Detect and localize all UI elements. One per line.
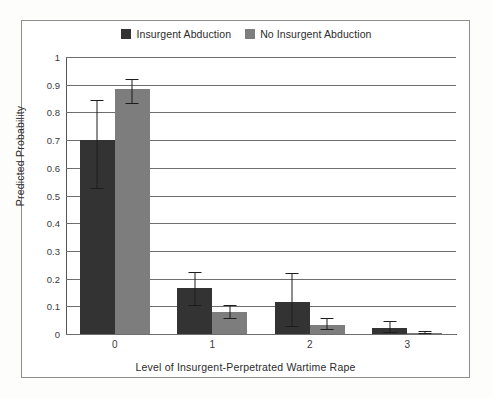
error-bar-cap-lower <box>126 103 139 104</box>
error-bar-line <box>292 273 293 328</box>
y-axis-title: Predicted Probability <box>14 101 26 211</box>
error-bar-cap-upper <box>126 79 139 80</box>
gridline <box>66 334 456 335</box>
error-bar <box>177 272 212 307</box>
error-bar-cap-upper <box>286 273 299 274</box>
error-bar-cap-lower <box>188 305 201 306</box>
error-bar-cap-upper <box>383 321 396 322</box>
error-bar <box>372 321 407 333</box>
error-bar-line <box>97 100 98 189</box>
y-axis-tick-label: 0.5 <box>47 190 60 201</box>
y-axis-tick-label: 0.8 <box>47 107 60 118</box>
error-bar-line <box>194 272 195 307</box>
y-axis-tick-labels: 10.90.80.70.60.50.40.30.20.10 <box>26 57 60 334</box>
y-axis-tick-label: 1 <box>55 52 60 63</box>
y-axis-tick-label: 0.1 <box>47 301 60 312</box>
error-bar <box>407 331 442 334</box>
error-bar <box>115 79 150 104</box>
y-axis-tick-label: 0.3 <box>47 245 60 256</box>
x-axis-title: Level of Insurgent-Perpetrated Wartime R… <box>21 361 470 373</box>
x-axis-tick-label: 2 <box>307 339 313 350</box>
error-bar-cap-lower <box>286 326 299 327</box>
plot-area <box>66 57 456 334</box>
gridline <box>66 57 456 58</box>
y-axis-tick-label: 0.6 <box>47 162 60 173</box>
error-bar <box>275 273 310 328</box>
y-axis-tick-label: 0.7 <box>47 135 60 146</box>
x-axis-tick-label: 3 <box>404 339 410 350</box>
error-bar-cap-upper <box>91 100 104 101</box>
error-bar <box>310 318 345 330</box>
error-bar-cap-lower <box>418 333 431 334</box>
bar <box>115 89 150 334</box>
x-axis-tick-label: 0 <box>112 339 118 350</box>
x-axis-tick-label: 1 <box>209 339 215 350</box>
error-bar <box>212 305 247 319</box>
y-axis-tick-label: 0.4 <box>47 218 60 229</box>
error-bar-cap-upper <box>223 305 236 306</box>
y-axis-tick-label: 0.9 <box>47 79 60 90</box>
error-bar-cap-upper <box>188 272 201 273</box>
error-bar-line <box>132 79 133 104</box>
error-bar-cap-lower <box>223 318 236 319</box>
error-bar <box>80 100 115 189</box>
error-bar-line <box>229 305 230 319</box>
error-bar-cap-lower <box>321 329 334 330</box>
error-bar-cap-lower <box>383 332 396 333</box>
error-bar-cap-lower <box>91 188 104 189</box>
error-bar-cap-upper <box>321 318 334 319</box>
chart-figure: Insurgent Abduction No Insurgent Abducti… <box>0 0 493 398</box>
y-axis-tick-label: 0.2 <box>47 273 60 284</box>
y-axis-tick-label: 0 <box>55 329 60 340</box>
